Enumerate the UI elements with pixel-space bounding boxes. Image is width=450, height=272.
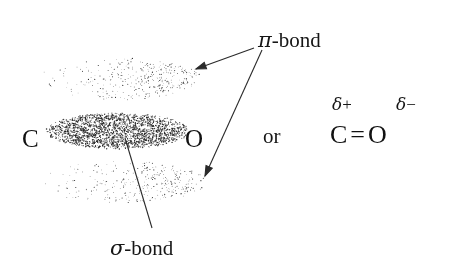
atom-label-carbon: C xyxy=(22,126,39,151)
sigma-symbol: σ xyxy=(110,236,124,260)
formula-double-bond: = xyxy=(347,120,368,149)
sigma-bond-suffix: -bond xyxy=(124,236,173,260)
delta-symbol-positive: δ xyxy=(332,94,342,114)
charge-sign-positive: + xyxy=(342,95,352,114)
atom-label-oxygen: O xyxy=(185,126,203,151)
sigma-bond-callout: σ-bond xyxy=(110,238,173,259)
sigma-leader xyxy=(125,138,152,228)
formula-atom-carbon: C xyxy=(330,120,347,149)
pi-leader-bottom-arrowhead xyxy=(205,165,212,176)
partial-positive-charge: δ+ xyxy=(332,96,352,113)
pi-bond-suffix: -bond xyxy=(272,28,321,52)
carbonyl-bonding-figure: C O π-bond σ-bond or δ+ δ− C=O xyxy=(0,0,450,272)
pi-leader-bottom xyxy=(205,50,262,176)
formula-atom-oxygen: O xyxy=(368,120,387,149)
or-connector-text: or xyxy=(263,126,281,147)
pi-symbol: π xyxy=(258,28,272,52)
pi-bond-callout: π-bond xyxy=(258,30,321,51)
pi-leader-top-arrowhead xyxy=(196,62,207,69)
pi-leader-top xyxy=(196,48,254,69)
partial-negative-charge: δ− xyxy=(396,96,416,113)
charge-sign-negative: − xyxy=(406,95,416,114)
delta-symbol-negative: δ xyxy=(396,94,406,114)
condensed-formula: C=O xyxy=(330,122,387,148)
